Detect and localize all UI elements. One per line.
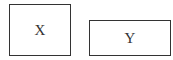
box-x: X — [9, 4, 71, 56]
box-y-label: Y — [125, 30, 136, 47]
box-y: Y — [89, 20, 171, 56]
box-x-label: X — [35, 22, 46, 39]
